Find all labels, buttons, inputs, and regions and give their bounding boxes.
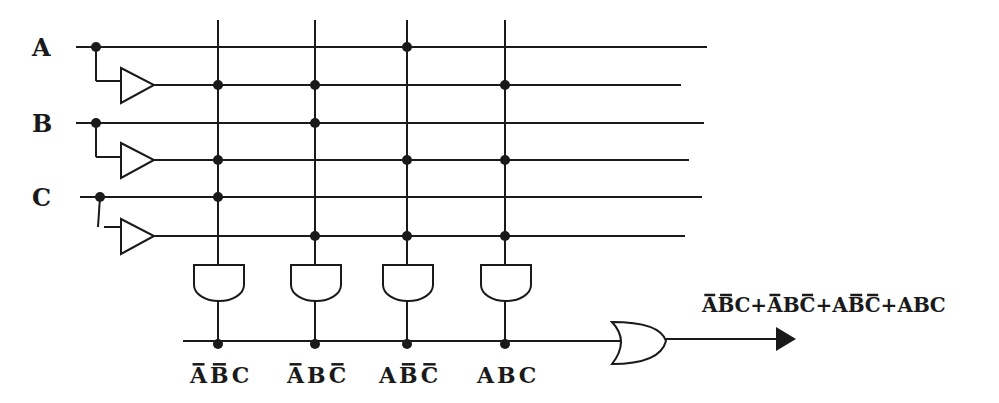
connection-dot bbox=[402, 231, 412, 241]
term-letter: A bbox=[378, 362, 397, 388]
product-term-label: ABC bbox=[476, 362, 536, 388]
term-letter: B bbox=[913, 293, 930, 317]
term-letter: C bbox=[930, 293, 946, 317]
term-letter: B bbox=[399, 362, 418, 388]
term-letter: + bbox=[815, 293, 832, 317]
connection-dot bbox=[500, 231, 510, 241]
product-column-2: ABC bbox=[286, 20, 346, 388]
product-term-label: ABC bbox=[189, 362, 249, 388]
inverter-B bbox=[121, 143, 154, 178]
term-letter: A bbox=[831, 293, 848, 317]
or-gate bbox=[612, 322, 666, 364]
input-C: C bbox=[32, 183, 702, 254]
connection-dot bbox=[310, 118, 320, 128]
connection-dot bbox=[402, 42, 412, 52]
connection-dot bbox=[213, 80, 223, 90]
term-letter: A bbox=[701, 293, 718, 317]
connection-dot bbox=[213, 155, 223, 165]
product-column-1: ABC bbox=[189, 20, 249, 388]
pla-diagram: ABC ABCABCABCABC ABC +ABC+ABC+ABC bbox=[0, 0, 999, 403]
inverter-C bbox=[121, 219, 154, 254]
product-column-4: ABC bbox=[476, 20, 536, 388]
product-term-label: ABC bbox=[286, 362, 346, 388]
and-gate bbox=[383, 265, 433, 301]
term-letter: C bbox=[232, 362, 250, 388]
term-letter: B bbox=[783, 293, 800, 317]
input-B: B bbox=[32, 109, 704, 178]
term-letter: C bbox=[421, 362, 439, 388]
connection-dot bbox=[500, 155, 510, 165]
connection-dot bbox=[402, 155, 412, 165]
and-gate bbox=[194, 265, 244, 301]
input-A: A bbox=[31, 33, 707, 103]
term-letter: C bbox=[734, 293, 750, 317]
term-letter: B bbox=[307, 362, 326, 388]
term-letter: C bbox=[865, 293, 881, 317]
input-label: A bbox=[31, 33, 51, 62]
term-letter: A bbox=[896, 293, 913, 317]
connection-dot bbox=[310, 231, 320, 241]
or-output: ABC +ABC+ABC+ABC bbox=[183, 293, 946, 364]
term-letter: A bbox=[189, 362, 208, 388]
term-letter: B bbox=[497, 362, 516, 388]
and-gate bbox=[291, 265, 341, 301]
term-letter: C bbox=[519, 362, 537, 388]
term-letter: A bbox=[766, 293, 783, 317]
output-arrow-icon bbox=[776, 327, 796, 351]
term-letter: B bbox=[718, 293, 735, 317]
input-label: C bbox=[32, 183, 51, 212]
product-term-label: ABC bbox=[378, 362, 438, 388]
term-letter: B bbox=[848, 293, 865, 317]
connection-dot bbox=[500, 80, 510, 90]
term-letter: C bbox=[329, 362, 347, 388]
connection-dot bbox=[213, 192, 223, 202]
term-letter: A bbox=[476, 362, 495, 388]
inverter-A bbox=[121, 68, 154, 103]
product-term-columns: ABCABCABCABC bbox=[189, 20, 536, 388]
and-gate bbox=[481, 265, 531, 301]
product-column-3: ABC bbox=[378, 20, 438, 388]
output-expression: ABC +ABC+ABC+ABC bbox=[701, 293, 946, 317]
term-letter: A bbox=[286, 362, 305, 388]
term-letter: + bbox=[881, 293, 898, 317]
input-label: B bbox=[32, 109, 52, 138]
connection-dot bbox=[310, 80, 320, 90]
term-letter: B bbox=[210, 362, 229, 388]
term-letter: + bbox=[750, 293, 767, 317]
input-lines: ABC bbox=[31, 33, 707, 254]
term-letter: C bbox=[800, 293, 816, 317]
